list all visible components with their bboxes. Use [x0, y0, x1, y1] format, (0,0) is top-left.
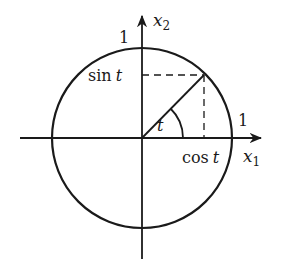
top-one-label: 1	[119, 28, 129, 47]
angle-label: t	[157, 116, 164, 135]
cos-label: cost	[182, 148, 220, 167]
sin-label: sint	[88, 66, 123, 85]
x2-axis-label: x2	[153, 10, 170, 33]
unit-circle-diagram: x2 x1 1 1 sint cost t	[0, 0, 281, 273]
x1-axis-label: x1	[243, 146, 260, 169]
angle-arc	[171, 109, 184, 139]
right-one-label: 1	[238, 111, 248, 130]
radius-line	[142, 75, 204, 138]
